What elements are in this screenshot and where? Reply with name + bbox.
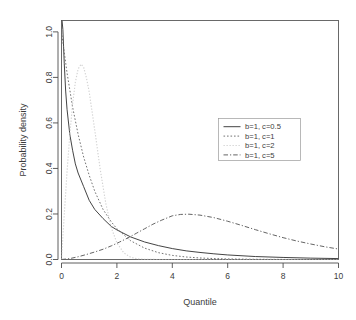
y-tick-label: 0.6 (44, 117, 54, 129)
density-plot: 02468100.00.20.40.60.81.0QuantileProbabi… (0, 0, 356, 320)
legend-label-3: b=1, c=5 (245, 151, 275, 160)
legend-label-1: b=1, c=1 (245, 132, 275, 141)
x-axis-title: Quantile (183, 297, 217, 307)
y-tick-label: 0.0 (44, 253, 54, 265)
x-tick-label: 8 (281, 271, 286, 281)
x-tick-label: 6 (225, 271, 230, 281)
y-tick-label: 0.2 (44, 208, 54, 220)
x-tick-label: 0 (59, 271, 64, 281)
legend-label-0: b=1, c=0.5 (245, 122, 281, 131)
y-tick-label: 0.8 (44, 71, 54, 83)
x-tick-label: 2 (115, 271, 120, 281)
legend-label-2: b=1, c=2 (245, 141, 275, 150)
x-tick-label: 10 (334, 271, 344, 281)
chart-container: 02468100.00.20.40.60.81.0QuantileProbabi… (0, 0, 356, 320)
y-axis-title: Probability density (18, 103, 28, 177)
y-tick-label: 0.4 (44, 162, 54, 174)
y-tick-label: 1.0 (44, 26, 54, 38)
curve-series-2 (62, 64, 339, 259)
x-tick-label: 4 (170, 271, 175, 281)
